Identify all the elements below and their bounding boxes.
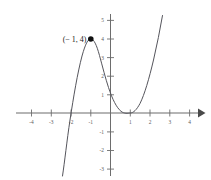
marked-point-dot xyxy=(88,36,94,42)
y-axis-tick-labels: 5 4 3 2 1 -1 -2 -3 xyxy=(100,17,105,172)
x-tick-label: -4 xyxy=(29,119,34,125)
x-tick-label: 4 xyxy=(188,119,191,125)
y-tick-label: 3 xyxy=(101,55,104,61)
x-tick-label: -1 xyxy=(89,119,94,125)
y-tick-label: 5 xyxy=(101,17,104,23)
y-tick-label: -3 xyxy=(100,166,105,172)
x-tick-label: 3 xyxy=(168,119,171,125)
y-tick-label: -1 xyxy=(100,129,105,135)
x-tick-label: 2 xyxy=(149,119,152,125)
marked-point-label: (− 1, 4) xyxy=(63,35,87,44)
x-tick-label: 1 xyxy=(129,119,132,125)
cubic-function-graph: -4 -3 -2 -1 1 2 3 4 5 4 3 2 1 -1 -2 -3 (… xyxy=(0,0,211,180)
y-tick-label: -2 xyxy=(100,147,105,153)
y-tick-label: 4 xyxy=(101,36,104,42)
x-axis-arrow-icon xyxy=(198,109,206,118)
x-tick-label: -3 xyxy=(49,119,54,125)
y-tick-label: 1 xyxy=(101,92,104,98)
y-tick-label: 2 xyxy=(101,73,104,79)
plot-canvas: -4 -3 -2 -1 1 2 3 4 5 4 3 2 1 -1 -2 -3 (… xyxy=(0,0,211,180)
